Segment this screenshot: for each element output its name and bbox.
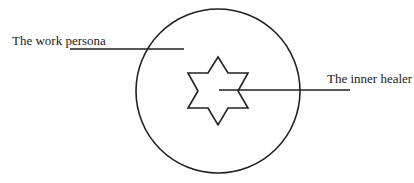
- diagram-canvas: [0, 0, 414, 183]
- outer-circle-work-persona: [136, 9, 300, 173]
- label-inner-healer: The inner healer: [327, 72, 412, 86]
- star-icon-inner-healer: [188, 57, 248, 125]
- label-work-persona: The work persona: [12, 34, 106, 48]
